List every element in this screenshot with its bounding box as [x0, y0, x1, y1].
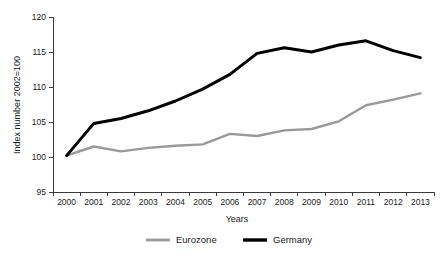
x-tick-label-2010: 2010: [329, 197, 348, 207]
x-tick-label-2005: 2005: [193, 197, 212, 207]
line-chart-figure: 95100105110115120 2000200120022003200420…: [0, 0, 443, 260]
x-axis: 2000200120022003200420052006200720082009…: [53, 192, 434, 207]
y-tick-label-115: 115: [32, 47, 46, 57]
y-axis-title: Index number 2002=100: [12, 56, 22, 154]
legend-label-germany: Germany: [273, 234, 312, 245]
x-tick-label-2008: 2008: [275, 197, 294, 207]
y-tick-label-95: 95: [37, 187, 47, 197]
x-tick-label-2003: 2003: [139, 197, 158, 207]
data-series-group: [67, 41, 421, 156]
x-tick-label-2000: 2000: [57, 197, 76, 207]
x-tick-label-2006: 2006: [220, 197, 239, 207]
x-tick-label-2013: 2013: [411, 197, 430, 207]
x-tick-label-2001: 2001: [84, 197, 103, 207]
series-line-germany: [67, 41, 421, 156]
x-tick-label-2002: 2002: [112, 197, 131, 207]
chart-plot-area: 95100105110115120 2000200120022003200420…: [0, 0, 443, 260]
x-tick-label-2011: 2011: [357, 197, 376, 207]
x-tick-label-2007: 2007: [248, 197, 267, 207]
x-tick-label-2004: 2004: [166, 197, 185, 207]
x-tick-label-2012: 2012: [384, 197, 403, 207]
x-axis-title: Years: [226, 214, 249, 224]
y-tick-label-105: 105: [32, 117, 46, 127]
y-tick-label-120: 120: [32, 12, 46, 22]
chart-legend: EurozoneGermany: [146, 234, 312, 245]
legend-label-eurozone: Eurozone: [176, 234, 217, 245]
y-tick-label-100: 100: [32, 152, 46, 162]
y-tick-label-110: 110: [32, 82, 46, 92]
y-axis: 95100105110115120: [32, 12, 53, 197]
series-line-eurozone: [67, 93, 421, 155]
x-tick-label-2009: 2009: [302, 197, 321, 207]
